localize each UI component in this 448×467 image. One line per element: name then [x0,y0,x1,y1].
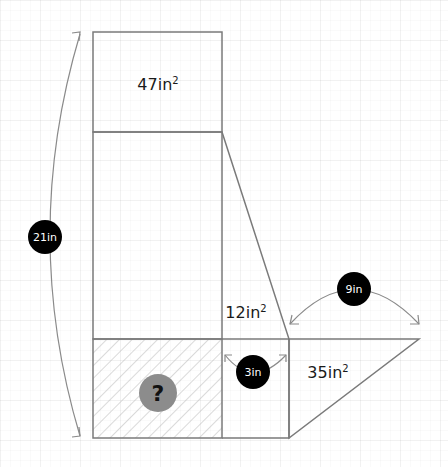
unknown-badge: ? [139,374,177,412]
trapezoid-area: 12in2 [225,303,266,322]
question-mark-icon: ? [152,381,165,406]
height-label: 21in [33,231,57,244]
triangle-outline [289,339,419,438]
top-rect-area: 47in2 [137,75,178,94]
base-badge: 9in [337,272,371,306]
width-badge: 3in [236,355,270,389]
base-label: 9in [345,283,362,296]
middle-rectangle [93,132,222,339]
width-label: 3in [244,366,261,379]
height-badge: 21in [28,220,62,254]
triangle-area: 35in2 [307,363,348,382]
trapezoid-outline [222,132,289,438]
composite-shape-diagram: 21in 9in 3in 47in2 12in2 35in2 ? [0,0,448,467]
